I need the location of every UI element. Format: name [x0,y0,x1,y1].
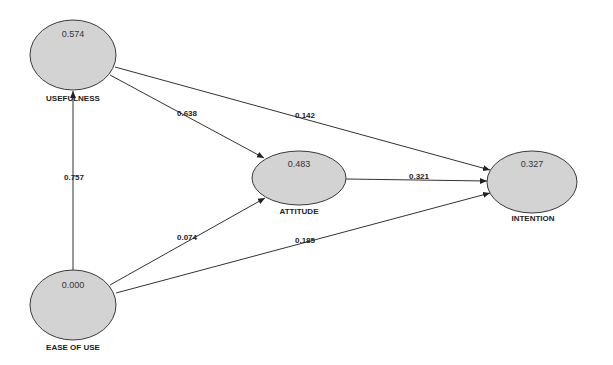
node-ease-of-use[interactable]: 0.000 EASE OF USE [30,270,116,352]
coef-ease-to-attitude: 0.074 [177,233,198,242]
node-intention-value: 0.327 [521,159,544,169]
coef-usefulness-to-intention: 0.142 [295,111,316,120]
node-ease-of-use-value: 0.000 [62,280,85,290]
node-intention[interactable]: 0.327 INTENTION [487,151,577,223]
node-attitude-label: ATTITUDE [280,207,320,216]
node-usefulness-label: USEFULNESS [46,94,100,103]
node-attitude-value: 0.483 [288,159,311,169]
path-diagram: 0.757 0.638 0.142 0.321 0.074 0.185 0.57… [0,0,613,365]
edge-coefficients: 0.757 0.638 0.142 0.321 0.074 0.185 [64,109,430,245]
node-ease-of-use-label: EASE OF USE [46,343,100,352]
node-attitude[interactable]: 0.483 ATTITUDE [252,151,346,216]
coef-usefulness-to-attitude: 0.638 [177,109,198,118]
node-usefulness-value: 0.574 [62,29,85,39]
coef-ease-to-intention: 0.185 [295,236,316,245]
coef-ease-to-usefulness: 0.757 [64,173,85,182]
node-intention-label: INTENTION [511,214,554,223]
coef-attitude-to-intention: 0.321 [409,172,430,181]
node-usefulness[interactable]: 0.574 USEFULNESS [30,20,116,103]
